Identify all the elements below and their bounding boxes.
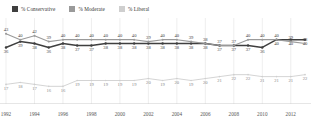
- data-label: 36: [46, 49, 51, 54]
- data-point: [48, 41, 50, 43]
- data-label: 40: [118, 33, 123, 38]
- square-swatch-icon: [69, 6, 75, 12]
- data-label: 39: [18, 43, 23, 48]
- data-label: 19: [132, 82, 137, 87]
- chart-figure: % Conservative % Moderate % Liberal 3639…: [0, 0, 311, 126]
- data-label: 40: [75, 33, 80, 38]
- legend-item-conservative: % Conservative: [12, 6, 55, 12]
- data-label: 40: [274, 41, 279, 46]
- data-label: 17: [4, 86, 9, 91]
- data-point: [147, 41, 149, 43]
- data-label: 19: [160, 82, 165, 87]
- x-axis-tick-label: 2000: [115, 111, 125, 117]
- data-label: 38: [132, 45, 137, 50]
- data-label: 37: [217, 39, 222, 44]
- data-label: 40: [160, 33, 165, 38]
- data-point: [119, 39, 121, 41]
- data-label: 20: [146, 80, 151, 85]
- data-label: 42: [32, 29, 37, 34]
- x-axis-tick-label: 2012: [286, 111, 296, 117]
- x-axis-tick-label: 2004: [172, 111, 182, 117]
- data-label: 21: [274, 78, 279, 83]
- data-point: [204, 43, 206, 45]
- data-point: [290, 41, 292, 43]
- chart-legend: % Conservative % Moderate % Liberal: [0, 2, 311, 16]
- data-label: 38: [189, 45, 194, 50]
- data-label: 37: [89, 47, 94, 52]
- data-label: 21: [288, 78, 293, 83]
- legend-label-liberal: % Liberal: [128, 6, 150, 12]
- data-point: [304, 43, 306, 45]
- data-label: 40: [18, 33, 23, 38]
- data-label: 38: [146, 45, 151, 50]
- data-label: 39: [189, 35, 194, 40]
- data-label: 19: [89, 82, 94, 87]
- data-label: 40: [61, 33, 66, 38]
- data-label: 40: [274, 33, 279, 38]
- data-label: 40: [175, 33, 180, 38]
- data-label: 19: [103, 82, 108, 87]
- data-label: 21: [260, 78, 265, 83]
- data-point: [105, 39, 107, 41]
- x-axis-tick-label: 1996: [58, 111, 68, 117]
- data-label: 39: [288, 35, 293, 40]
- data-label: 22: [303, 76, 308, 81]
- data-label: 37: [232, 47, 237, 52]
- data-label: 38: [118, 45, 123, 50]
- data-point: [233, 45, 235, 47]
- data-point: [261, 39, 263, 41]
- data-point: [247, 39, 249, 41]
- data-label: 38: [203, 37, 208, 42]
- data-label: 18: [18, 84, 23, 89]
- data-label: 38: [61, 45, 66, 50]
- legend-item-liberal: % Liberal: [119, 6, 150, 12]
- line-chart-svg: 3639383638373738383838383838383737373640…: [0, 18, 311, 104]
- data-point: [276, 39, 278, 41]
- data-label: 19: [75, 82, 80, 87]
- x-axis-tick-label: 1994: [29, 111, 39, 117]
- legend-label-moderate: % Moderate: [78, 6, 105, 12]
- legend-label-conservative: % Conservative: [21, 6, 55, 12]
- data-label: 37: [232, 39, 237, 44]
- data-point: [5, 33, 7, 35]
- data-point: [162, 39, 164, 41]
- data-point: [176, 39, 178, 41]
- data-label: 20: [203, 80, 208, 85]
- data-label: 40: [246, 33, 251, 38]
- data-label: 40: [103, 33, 108, 38]
- data-label: 37: [217, 47, 222, 52]
- data-label: 38: [160, 45, 165, 50]
- data-label: 16: [46, 88, 51, 93]
- data-label: 39: [46, 35, 51, 40]
- data-point: [33, 35, 35, 37]
- data-label: 20: [175, 80, 180, 85]
- data-label: 38: [175, 45, 180, 50]
- data-label: 38: [303, 37, 308, 42]
- data-label: 36: [4, 49, 9, 54]
- data-label: 37: [75, 47, 80, 52]
- data-label: 43: [4, 27, 9, 32]
- x-axis-tick-label: 2010: [257, 111, 267, 117]
- data-label: 16: [61, 88, 66, 93]
- legend-item-moderate: % Moderate: [69, 6, 105, 12]
- data-label: 39: [146, 35, 151, 40]
- data-label: 22: [246, 76, 251, 81]
- data-point: [76, 39, 78, 41]
- data-point: [19, 39, 21, 41]
- square-swatch-icon: [12, 6, 18, 12]
- data-label: 17: [32, 86, 37, 91]
- chart-plot-area: 3639383638373738383838383838383737373640…: [0, 18, 311, 104]
- data-label: 40: [89, 33, 94, 38]
- data-point: [190, 41, 192, 43]
- x-axis: 1992199419961998200020022004200620082010…: [0, 104, 311, 126]
- data-label: 40: [260, 33, 265, 38]
- data-label: 21: [217, 78, 222, 83]
- square-swatch-icon: [119, 6, 125, 12]
- data-label: 36: [260, 49, 265, 54]
- data-label: 19: [189, 82, 194, 87]
- data-label: 37: [246, 47, 251, 52]
- data-label: 38: [32, 45, 37, 50]
- x-axis-tick-label: 1998: [86, 111, 96, 117]
- data-label: 22: [232, 76, 237, 81]
- data-label: 38: [203, 45, 208, 50]
